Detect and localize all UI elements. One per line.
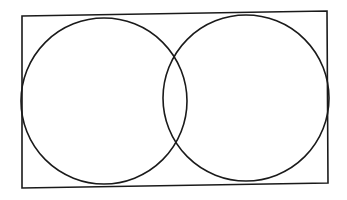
venn-diagram — [0, 0, 347, 200]
universe-rectangle — [22, 11, 328, 188]
right-circle — [163, 15, 329, 181]
left-circle — [21, 18, 187, 184]
